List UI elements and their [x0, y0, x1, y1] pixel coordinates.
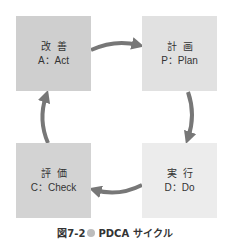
node-check-jp-label: 評価 [41, 167, 73, 181]
node-do-en-label: D：Do [164, 181, 194, 195]
node-check-en-label: C：Check [31, 181, 77, 195]
node-plan-jp-label: 計画 [167, 40, 199, 54]
node-do-jp-label: 実行 [167, 167, 199, 181]
node-plan: 計画 P：Plan [142, 16, 217, 91]
arrow-act-to-plan [91, 43, 138, 50]
node-plan-en-label: P：Plan [161, 54, 198, 68]
node-act: 改善 A：Act [16, 16, 91, 91]
arrow-check-to-act [42, 96, 48, 143]
node-check: 評価 C：Check [16, 143, 91, 218]
bullet-dot-icon [87, 229, 95, 237]
arrow-do-to-check [95, 185, 142, 193]
node-act-jp-label: 改善 [41, 40, 73, 54]
figure-caption: 図7-2PDCA サイクル [0, 225, 230, 240]
arrow-plan-to-do [188, 92, 192, 138]
node-act-en-label: A：Act [38, 54, 69, 68]
figure-title: PDCA サイクル [98, 228, 172, 239]
node-do: 実行 D：Do [142, 143, 217, 218]
figure-number: 図7-2 [57, 225, 85, 240]
